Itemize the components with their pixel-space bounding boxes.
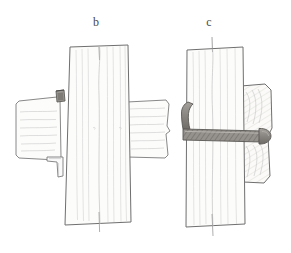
panel-b-upper-peg	[56, 90, 65, 102]
joint-detail-sketch: b	[0, 0, 291, 253]
panel-b-left-beam	[16, 97, 61, 160]
figure-root: b	[0, 0, 291, 253]
panel-b-right-beam	[127, 100, 170, 158]
panel-b-label: b	[93, 15, 99, 29]
panel-b-vertical-post	[65, 45, 131, 232]
panel-c-label: c	[206, 15, 212, 29]
